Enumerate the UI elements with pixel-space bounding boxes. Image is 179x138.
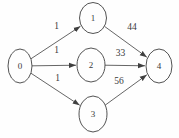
edge-weight-label: 1 — [55, 73, 60, 83]
edge-weight-label: 33 — [116, 48, 126, 58]
edge-weight-label: 56 — [114, 76, 124, 86]
node-label: 0 — [18, 61, 23, 71]
graph-node-4: 4 — [146, 49, 172, 83]
edge-weight-label: 1 — [54, 21, 59, 31]
edge-weight-label: 44 — [127, 22, 137, 32]
node-label: 1 — [91, 13, 96, 23]
edge-weight-label: 1 — [54, 45, 59, 55]
graph-canvas: 111443356 01234 — [0, 0, 179, 138]
graph-node-0: 0 — [8, 49, 32, 83]
node-label: 3 — [91, 109, 96, 119]
graph-node-2: 2 — [77, 48, 105, 82]
graph-node-1: 1 — [80, 3, 107, 34]
graph-node-3: 3 — [79, 96, 107, 132]
node-label: 4 — [157, 61, 162, 71]
graph-diagram: 111443356 01234 — [0, 0, 179, 138]
node-label: 2 — [89, 60, 94, 70]
